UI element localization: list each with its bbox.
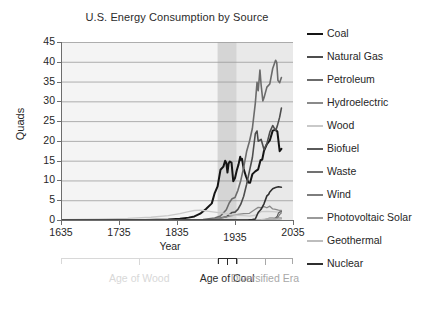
era-label-diversified-era: Diversified Era xyxy=(225,272,305,284)
y-axis-tick xyxy=(57,141,61,142)
legend-item-natural-gas[interactable]: Natural Gas xyxy=(307,45,435,68)
y-axis-tick-label: 30 xyxy=(21,94,55,106)
x-axis-tick xyxy=(61,221,62,225)
y-axis-tick xyxy=(57,62,61,63)
legend-swatch-icon xyxy=(307,263,323,265)
x-axis-tick-label: 1635 xyxy=(41,226,81,238)
era-bracket-stem xyxy=(227,258,228,265)
y-axis-tick xyxy=(57,161,61,162)
page-title: U.S. Energy Consumption by Source xyxy=(61,11,293,23)
y-axis-tick xyxy=(57,200,61,201)
x-axis-tick-label: 1935 xyxy=(215,231,255,243)
y-axis-tick-label: 40 xyxy=(21,55,55,67)
y-axis-tick-label: 5 xyxy=(21,193,55,205)
era-bracket-left-cap xyxy=(218,258,219,264)
legend-item-label: Geothermal xyxy=(327,235,382,246)
x-axis-tick xyxy=(235,221,236,225)
y-axis-tick xyxy=(57,42,61,43)
legend-item-label: Petroleum xyxy=(327,74,375,85)
legend-swatch-icon xyxy=(307,79,323,81)
plot-svg xyxy=(61,42,293,220)
legend-item-petroleum[interactable]: Petroleum xyxy=(307,68,435,91)
x-axis-tick-label: 1735 xyxy=(99,226,139,238)
legend-item-label: Natural Gas xyxy=(327,51,383,62)
legend-swatch-icon xyxy=(307,194,323,196)
legend-item-label: Waste xyxy=(327,166,356,177)
legend-item-label: Coal xyxy=(327,28,349,39)
y-axis-tick xyxy=(57,121,61,122)
legend-item-label: Hydroelectric xyxy=(327,97,388,108)
legend-item-hydroelectric[interactable]: Hydroelectric xyxy=(307,91,435,114)
legend-swatch-icon xyxy=(307,56,323,58)
y-axis-line xyxy=(61,42,62,221)
era-bracket-diversified-era xyxy=(237,258,293,267)
legend-item-biofuel[interactable]: Biofuel xyxy=(307,137,435,160)
chart-figure: U.S. Energy Consumption by Source 051015… xyxy=(0,0,437,315)
legend-item-label: Photovoltaic Solar xyxy=(327,212,412,223)
legend-swatch-icon xyxy=(307,171,323,173)
y-axis-tick-label: 35 xyxy=(21,75,55,87)
legend-item-label: Biofuel xyxy=(327,143,359,154)
era-bracket-left-cap xyxy=(237,258,238,264)
x-axis-tick-label: 2035 xyxy=(273,226,313,238)
plot-area xyxy=(61,42,293,220)
legend-item-geothermal[interactable]: Geothermal xyxy=(307,229,435,252)
era-bracket-age-of-wood xyxy=(61,258,218,267)
era-bracket-right-cap xyxy=(292,258,293,264)
legend-swatch-icon xyxy=(307,240,323,242)
legend-item-label: Wood xyxy=(327,120,354,131)
x-axis-tick-label: 1835 xyxy=(157,226,197,238)
y-axis-tick xyxy=(57,180,61,181)
y-axis-tick xyxy=(57,101,61,102)
era-bracket-stem xyxy=(265,258,266,265)
legend-swatch-icon xyxy=(307,33,323,35)
y-axis-tick-label: 15 xyxy=(21,154,55,166)
legend-swatch-icon xyxy=(307,125,323,127)
legend-item-label: Wind xyxy=(327,189,351,200)
band-age-of-coal xyxy=(218,42,237,220)
legend-item-photovoltaic-solar[interactable]: Photovoltaic Solar xyxy=(307,206,435,229)
legend-item-coal[interactable]: Coal xyxy=(307,22,435,45)
legend-swatch-icon xyxy=(307,102,323,104)
era-bracket-age-of-coal xyxy=(218,258,237,267)
x-axis-title: Year xyxy=(140,240,200,252)
legend-swatch-icon xyxy=(307,217,323,219)
legend-swatch-icon xyxy=(307,148,323,150)
x-axis-tick xyxy=(293,221,294,225)
era-bracket-stem xyxy=(139,258,140,265)
y-axis-tick-label: 0 xyxy=(21,213,55,225)
y-axis-title: Quads xyxy=(14,94,26,154)
y-axis-tick-label: 20 xyxy=(21,134,55,146)
x-axis-tick xyxy=(177,221,178,225)
y-axis-tick-label: 45 xyxy=(21,35,55,47)
legend-item-wind[interactable]: Wind xyxy=(307,183,435,206)
legend: CoalNatural GasPetroleumHydroelectricWoo… xyxy=(307,22,435,275)
y-axis-tick-label: 25 xyxy=(21,114,55,126)
legend-item-label: Nuclear xyxy=(327,258,363,269)
x-axis-tick xyxy=(119,221,120,225)
era-label-age-of-wood: Age of Wood xyxy=(99,272,179,284)
era-bracket-left-cap xyxy=(61,258,62,264)
band-age-of-wood xyxy=(61,42,218,220)
legend-item-waste[interactable]: Waste xyxy=(307,160,435,183)
legend-item-nuclear[interactable]: Nuclear xyxy=(307,252,435,275)
era-annotations: Age of WoodAge of CoalDiversified Era xyxy=(61,258,294,278)
legend-item-wood[interactable]: Wood xyxy=(307,114,435,137)
y-axis-tick-label: 10 xyxy=(21,173,55,185)
y-axis-tick xyxy=(57,82,61,83)
